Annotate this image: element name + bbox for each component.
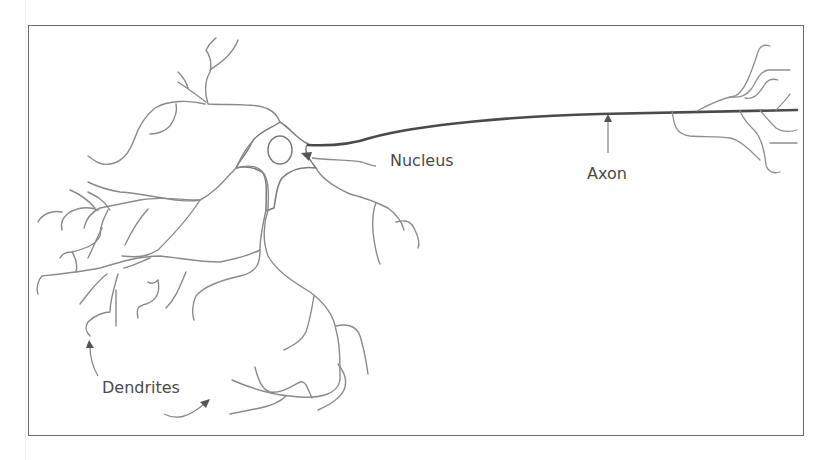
dendrites-label: Dendrites <box>102 380 180 396</box>
dendrites <box>37 38 419 414</box>
axon-terminals <box>672 45 797 172</box>
axon-arrow <box>604 114 612 153</box>
axon-label: Axon <box>587 166 627 182</box>
axon <box>308 110 797 145</box>
nucleus-label: Nucleus <box>390 153 454 169</box>
nucleus <box>268 136 292 164</box>
dendrites-arrow-left <box>86 340 98 376</box>
dendrites-arrow-right <box>164 399 210 417</box>
